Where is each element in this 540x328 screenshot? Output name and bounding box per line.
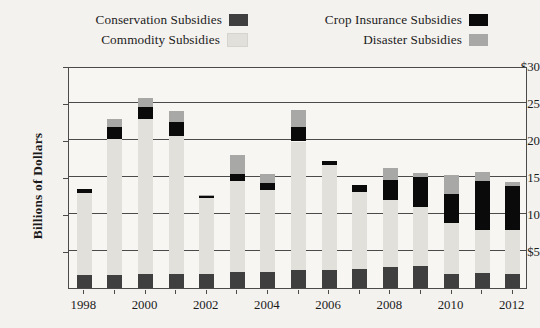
bar-segment-disaster-subsidies-2001 <box>169 111 184 121</box>
x-tick-mark-2003 <box>236 290 237 294</box>
bar-segment-crop-insurance-subsidies-2002 <box>199 196 214 199</box>
bar-segment-conservation-subsidies-2007 <box>352 269 367 288</box>
bar-2009[interactable] <box>413 66 428 288</box>
legend-item-disaster[interactable]: Disaster Subsidies <box>248 33 488 46</box>
x-tick-mark-2010 <box>451 290 452 294</box>
x-tick-mark-2008 <box>389 290 390 294</box>
y-axis-title: Billions of Dollars <box>30 86 46 286</box>
bar-segment-conservation-subsidies-2002 <box>199 274 214 288</box>
bar-segment-conservation-subsidies-2012 <box>505 274 520 288</box>
bar-segment-disaster-subsidies-2010 <box>444 175 459 194</box>
chart-legend: Conservation Subsidies Crop Insurance Su… <box>0 8 540 52</box>
x-tick-label-2008: 2008 <box>359 298 419 313</box>
legend-item-commodity[interactable]: Commodity Subsidies <box>52 33 248 47</box>
x-tick-label-2000: 2000 <box>115 298 175 313</box>
bar-segment-commodity-subsidies-2010 <box>444 223 459 274</box>
bar-segment-commodity-subsidies-2007 <box>352 192 367 269</box>
legend-label-commodity: Commodity Subsidies <box>101 33 220 46</box>
bar-segment-disaster-subsidies-2008 <box>383 168 398 180</box>
bar-2003[interactable] <box>230 66 245 288</box>
bar-segment-disaster-subsidies-2002 <box>199 195 214 196</box>
x-tick-mark-2011 <box>481 290 482 294</box>
bar-segment-disaster-subsidies-2012 <box>505 182 520 186</box>
bar-2000[interactable] <box>138 66 153 288</box>
x-tick-mark-2001 <box>175 290 176 294</box>
bar-segment-conservation-subsidies-1998 <box>77 275 92 288</box>
bar-segment-conservation-subsidies-2003 <box>230 272 245 288</box>
x-tick-label-2002: 2002 <box>176 298 236 313</box>
bar-segment-commodity-subsidies-2009 <box>413 207 428 266</box>
bar-2004[interactable] <box>260 66 275 288</box>
x-tick-mark-1999 <box>114 290 115 294</box>
legend-item-conservation[interactable]: Conservation Subsidies <box>52 13 248 26</box>
bar-segment-commodity-subsidies-2012 <box>505 230 520 274</box>
bar-segment-conservation-subsidies-2001 <box>169 274 184 288</box>
x-tick-mark-2012 <box>512 290 513 294</box>
bar-2008[interactable] <box>383 66 398 288</box>
bar-2010[interactable] <box>444 66 459 288</box>
bar-segment-conservation-subsidies-2006 <box>322 270 337 288</box>
legend-swatch-commodity <box>227 33 248 47</box>
x-tick-label-2010: 2010 <box>421 298 481 313</box>
bar-segment-commodity-subsidies-1998 <box>77 193 92 274</box>
bar-segment-conservation-subsidies-2000 <box>138 274 153 288</box>
bar-2011[interactable] <box>475 66 490 288</box>
bar-segment-crop-insurance-subsidies-2001 <box>169 122 184 137</box>
legend-item-crop-insurance[interactable]: Crop Insurance Subsidies <box>248 13 488 26</box>
bar-segment-crop-insurance-subsidies-2010 <box>444 194 459 223</box>
bar-segment-commodity-subsidies-2011 <box>475 230 490 273</box>
x-tick-label-2004: 2004 <box>237 298 297 313</box>
bar-segment-crop-insurance-subsidies-2004 <box>260 183 275 190</box>
legend-label-disaster: Disaster Subsidies <box>363 33 462 46</box>
plot-area <box>68 67 527 289</box>
bar-segment-crop-insurance-subsidies-2003 <box>230 174 245 181</box>
bar-segment-disaster-subsidies-2004 <box>260 174 275 183</box>
bar-segment-commodity-subsidies-2006 <box>322 165 337 270</box>
bar-segment-crop-insurance-subsidies-2006 <box>322 161 337 165</box>
bar-segment-commodity-subsidies-1999 <box>107 139 122 274</box>
bar-segment-crop-insurance-subsidies-2012 <box>505 186 520 230</box>
x-axis-ticks: 19982000200220042006200820102012 <box>68 290 527 324</box>
legend-swatch-disaster <box>469 34 488 46</box>
bar-2002[interactable] <box>199 66 214 288</box>
bar-segment-crop-insurance-subsidies-1999 <box>107 127 122 140</box>
bar-segment-crop-insurance-subsidies-2008 <box>383 180 398 200</box>
x-tick-mark-2004 <box>267 290 268 294</box>
bar-series-group <box>69 68 526 288</box>
bar-segment-disaster-subsidies-1999 <box>107 119 122 127</box>
legend-swatch-crop-insurance <box>469 14 488 26</box>
legend-row-1: Conservation Subsidies Crop Insurance Su… <box>0 10 540 30</box>
bar-segment-crop-insurance-subsidies-1998 <box>77 189 92 193</box>
bar-segment-crop-insurance-subsidies-2007 <box>352 185 367 192</box>
bar-segment-conservation-subsidies-2004 <box>260 272 275 288</box>
bar-2006[interactable] <box>322 66 337 288</box>
bar-segment-disaster-subsidies-2003 <box>230 155 245 174</box>
bar-segment-conservation-subsidies-2005 <box>291 270 306 288</box>
bar-1998[interactable] <box>77 66 92 288</box>
bar-segment-conservation-subsidies-2010 <box>444 274 459 288</box>
stacked-bar-chart: Conservation Subsidies Crop Insurance Su… <box>0 0 540 328</box>
x-tick-mark-2006 <box>328 290 329 294</box>
bar-segment-disaster-subsidies-2000 <box>138 98 153 108</box>
bar-1999[interactable] <box>107 66 122 288</box>
bar-2005[interactable] <box>291 66 306 288</box>
bar-segment-conservation-subsidies-1999 <box>107 275 122 288</box>
x-tick-label-2012: 2012 <box>482 298 540 313</box>
x-tick-mark-1998 <box>83 290 84 294</box>
legend-swatch-conservation <box>229 14 248 26</box>
bar-2001[interactable] <box>169 66 184 288</box>
bar-segment-crop-insurance-subsidies-2005 <box>291 127 306 141</box>
x-tick-label-1998: 1998 <box>53 298 113 313</box>
bar-segment-crop-insurance-subsidies-2009 <box>413 177 428 207</box>
bar-segment-commodity-subsidies-2001 <box>169 136 184 274</box>
x-tick-label-2006: 2006 <box>298 298 358 313</box>
bar-segment-commodity-subsidies-2008 <box>383 200 398 267</box>
bar-segment-disaster-subsidies-2011 <box>475 172 490 182</box>
bar-2007[interactable] <box>352 66 367 288</box>
bar-segment-commodity-subsidies-2004 <box>260 190 275 272</box>
bar-segment-conservation-subsidies-2009 <box>413 266 428 288</box>
bar-segment-commodity-subsidies-2005 <box>291 142 306 271</box>
bar-segment-conservation-subsidies-2008 <box>383 267 398 288</box>
bar-segment-commodity-subsidies-2002 <box>199 198 214 273</box>
bar-2012[interactable] <box>505 66 520 288</box>
